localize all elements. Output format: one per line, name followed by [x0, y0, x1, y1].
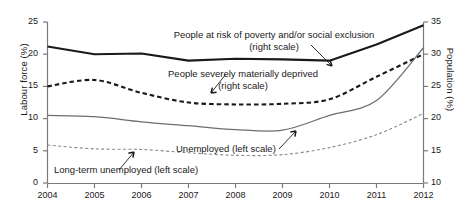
- series-label-unemployed: Unemployed (left scale): [176, 143, 276, 155]
- series-label-poverty-risk-text: People at risk of poverty and/or social …: [160, 29, 388, 41]
- left-axis-ticks: [43, 22, 48, 183]
- y-axis-right-tick-30: 30: [431, 48, 455, 58]
- series-label-severely-deprived-text: People severely materially deprived: [155, 68, 331, 80]
- x-axis-tick-2011: 2011: [359, 190, 395, 200]
- series-label-poverty-risk: People at risk of poverty and/or social …: [160, 29, 388, 52]
- x-axis-tick-2012: 2012: [406, 190, 442, 200]
- series-label-severely-deprived-scale: (right scale): [155, 80, 331, 92]
- series-label-severely-deprived: People severely materially deprived (rig…: [155, 68, 331, 91]
- y-axis-left-tick-0: 0: [16, 177, 38, 187]
- y-axis-left-tick-5: 5: [16, 145, 38, 155]
- bottom-axis-ticks: [48, 184, 424, 189]
- y-axis-right-tick-15: 15: [431, 145, 455, 155]
- series-label-long-term-unemployed: Long-term unemployed (left scale): [54, 164, 198, 176]
- leader-unemployed: [279, 131, 296, 149]
- x-axis-tick-2004: 2004: [30, 190, 66, 200]
- x-axis-tick-2009: 2009: [265, 190, 301, 200]
- x-axis-tick-2005: 2005: [77, 190, 113, 200]
- series-label-poverty-risk-scale: (right scale): [160, 41, 388, 53]
- y-axis-right-tick-10: 10: [431, 177, 455, 187]
- y-axis-left-tick-10: 10: [16, 112, 38, 122]
- x-axis-tick-2007: 2007: [171, 190, 207, 200]
- y-axis-right-tick-20: 20: [431, 112, 455, 122]
- y-axis-right-tick-35: 35: [431, 16, 455, 26]
- x-axis-tick-2008: 2008: [218, 190, 254, 200]
- chart-container: Labour force (%) Population (%) 25 20 15…: [0, 0, 473, 211]
- y-axis-right-tick-25: 25: [431, 80, 455, 90]
- x-axis-tick-2006: 2006: [124, 190, 160, 200]
- x-axis-tick-2010: 2010: [312, 190, 348, 200]
- right-axis-ticks: [424, 22, 429, 183]
- y-axis-left-tick-25: 25: [16, 16, 38, 26]
- y-axis-left-tick-15: 15: [16, 80, 38, 90]
- y-axis-left-tick-20: 20: [16, 48, 38, 58]
